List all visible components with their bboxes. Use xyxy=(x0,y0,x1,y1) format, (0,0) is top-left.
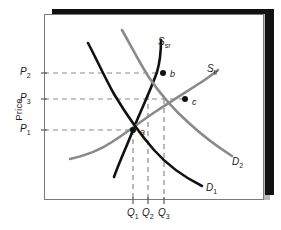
point-label-a: a xyxy=(140,127,145,137)
y-tick-label-P1: P1 xyxy=(20,123,31,136)
curve-label-demand-shifted: D2 xyxy=(232,156,243,169)
curve-long-run-supply xyxy=(70,70,218,159)
equilibrium-point-c xyxy=(182,96,188,102)
x-tick-label-Q2: Q2 xyxy=(142,207,154,220)
equilibrium-point-a xyxy=(130,127,136,133)
y-tick-label-P3: P3 xyxy=(20,92,31,105)
curve-label-short-run-supply: Ssr xyxy=(158,36,171,49)
figure-stage: Price P2P3P1 Q1Q2Q3 SsrSlrD1D2 abc xyxy=(0,0,281,230)
curve-paths xyxy=(70,30,232,186)
curve-demand-shifted xyxy=(122,30,232,156)
quantity-guide-lines xyxy=(133,95,164,200)
equilibrium-point-b xyxy=(160,70,166,76)
x-tick-label-Q1: Q1 xyxy=(127,207,139,220)
curve-demand-initial xyxy=(88,43,202,186)
curve-label-demand-initial: D1 xyxy=(206,182,217,195)
y-tick-label-P2: P2 xyxy=(20,66,31,79)
point-label-b: b xyxy=(170,69,175,79)
point-label-c: c xyxy=(192,97,197,107)
curve-label-long-run-supply: Slr xyxy=(207,63,218,76)
supply-demand-plot xyxy=(0,0,281,230)
x-tick-label-Q3: Q3 xyxy=(158,207,170,220)
